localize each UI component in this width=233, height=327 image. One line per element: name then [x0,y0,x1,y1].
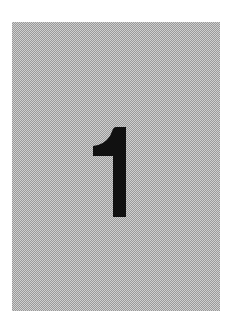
numeral-glyph-icon [12,22,220,311]
numbered-card: 1 [12,22,220,311]
numeral-one: 1 [12,22,220,311]
